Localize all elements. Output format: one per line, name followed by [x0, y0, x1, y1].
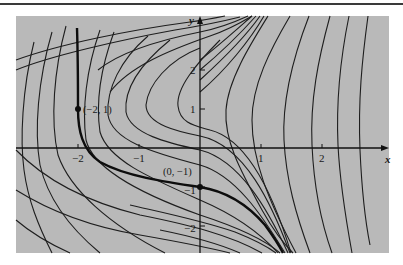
y-tick-label: −1 — [184, 184, 196, 196]
point-marker — [197, 184, 203, 190]
point-marker — [75, 106, 81, 112]
solution-curves-plot: −2 −1 1 2 2 1 −1 −2 x y (−2, 1) (0, −1) — [0, 0, 403, 265]
x-tick-label: 2 — [319, 152, 325, 164]
x-tick-label: −1 — [133, 152, 145, 164]
x-axis-label: x — [384, 153, 391, 165]
y-tick-label: 1 — [190, 103, 196, 115]
point-label: (0, −1) — [163, 166, 192, 178]
y-axis-label: y — [187, 14, 194, 26]
y-tick-label: 2 — [190, 64, 196, 76]
x-tick-label: −2 — [72, 152, 84, 164]
point-label: (−2, 1) — [83, 104, 112, 116]
y-tick-label: −2 — [184, 222, 196, 234]
x-tick-label: 1 — [258, 152, 264, 164]
